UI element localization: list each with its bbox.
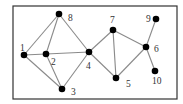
node-9 bbox=[153, 16, 160, 23]
node-label-9: 9 bbox=[146, 14, 151, 24]
edge-7-5 bbox=[113, 30, 116, 78]
edge-1-3 bbox=[24, 55, 62, 89]
edge-2-8 bbox=[46, 14, 59, 54]
edge-1-2 bbox=[24, 54, 46, 55]
node-2 bbox=[43, 51, 50, 58]
labels-layer: 12345678910 bbox=[20, 13, 162, 97]
edge-8-4 bbox=[59, 14, 89, 52]
node-label-1: 1 bbox=[20, 43, 25, 53]
node-6 bbox=[143, 44, 150, 51]
node-label-2: 2 bbox=[51, 57, 56, 67]
node-label-10: 10 bbox=[152, 76, 162, 86]
node-10 bbox=[152, 68, 159, 75]
edge-3-4 bbox=[62, 52, 89, 89]
node-label-7: 7 bbox=[110, 15, 115, 25]
edge-4-7 bbox=[89, 30, 113, 52]
node-label-8: 8 bbox=[68, 13, 73, 23]
node-label-5: 5 bbox=[126, 79, 131, 89]
edge-2-4 bbox=[46, 52, 89, 54]
node-label-6: 6 bbox=[154, 44, 159, 54]
node-8 bbox=[56, 11, 63, 18]
edge-7-6 bbox=[113, 30, 146, 47]
node-3 bbox=[59, 86, 66, 93]
node-5 bbox=[113, 75, 120, 82]
edge-4-5 bbox=[89, 52, 116, 78]
node-4 bbox=[86, 49, 93, 56]
node-label-4: 4 bbox=[86, 61, 91, 71]
graph-diagram: 12345678910 bbox=[0, 0, 183, 104]
nodes-layer bbox=[21, 11, 160, 93]
node-label-3: 3 bbox=[71, 87, 76, 97]
edge-1-8 bbox=[24, 14, 59, 55]
edge-5-6 bbox=[116, 47, 146, 78]
node-7 bbox=[110, 27, 117, 34]
